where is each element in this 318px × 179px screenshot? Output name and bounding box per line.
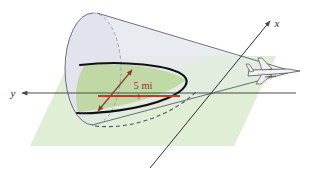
figure-container: y x 5 mi bbox=[0, 0, 318, 179]
airplane-fuselage bbox=[248, 69, 300, 76]
y-axis-label: y bbox=[10, 87, 16, 99]
radius-measure-label: 5 mi bbox=[134, 80, 153, 91]
sonic-boom-diagram: y x 5 mi bbox=[0, 0, 318, 179]
x-axis-label: x bbox=[274, 17, 280, 29]
